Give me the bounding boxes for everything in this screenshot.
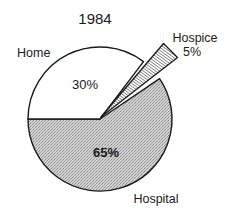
pie-chart: 1984 Home Hospice 5% Hospital 30% 65% (0, 0, 230, 213)
label-hospice-pct: 5% (183, 45, 201, 59)
value-hospital: 65% (93, 145, 119, 160)
label-hospital: Hospital (133, 192, 178, 206)
value-home: 30% (72, 77, 98, 92)
label-hospice: Hospice (172, 31, 217, 45)
label-home: Home (17, 46, 50, 60)
chart-title: 1984 (78, 10, 111, 27)
